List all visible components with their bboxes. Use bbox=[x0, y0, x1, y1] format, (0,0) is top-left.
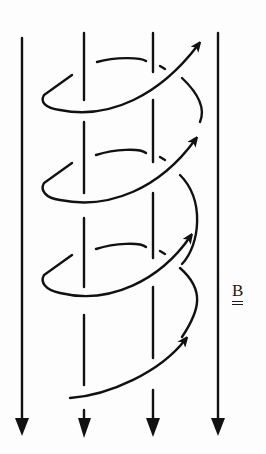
arrow-down-icon bbox=[146, 418, 160, 437]
helix-current bbox=[43, 45, 202, 398]
arrow-down-icon bbox=[15, 418, 29, 436]
field-line-arrowheads bbox=[15, 418, 225, 438]
field-label-text: B bbox=[232, 281, 243, 300]
field-label-b: B bbox=[232, 282, 243, 299]
underline bbox=[232, 304, 243, 305]
arrow-down-icon bbox=[211, 418, 225, 436]
helix-diagram bbox=[0, 0, 266, 454]
underline bbox=[232, 301, 243, 302]
arrow-down-icon bbox=[78, 418, 91, 438]
